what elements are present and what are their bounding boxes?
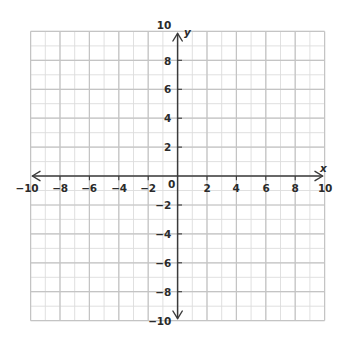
y-tick-label--6: −6	[130, 258, 171, 269]
x-tick-label--2: −2	[128, 183, 168, 194]
y-tick-label-8: 8	[130, 56, 171, 67]
x-tick-label-10: 10	[305, 183, 343, 194]
y-tick-label-4: 4	[130, 113, 171, 124]
origin-label: 0	[168, 179, 175, 190]
y-tick-label--4: −4	[130, 229, 171, 240]
y-tick-label-2: 2	[130, 142, 171, 153]
y-tick-label--2: −2	[130, 200, 171, 211]
coordinate-plane-grid	[0, 0, 343, 349]
y-axis-name-label: y	[184, 27, 191, 38]
plot-background	[0, 0, 343, 349]
x-axis-name-label: x	[320, 163, 327, 174]
y-tick-label-6: 6	[130, 84, 171, 95]
y-tick-label--10: −10	[130, 316, 171, 327]
y-tick-label--8: −8	[130, 287, 171, 298]
y-tick-label-10: 10	[130, 20, 171, 31]
